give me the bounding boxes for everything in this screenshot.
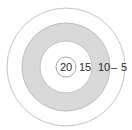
ring-label-20: 20 bbox=[60, 61, 72, 73]
concentric-ring-diagram: 20 15 10 – 5 bbox=[0, 0, 132, 130]
ring-label-5: 5 bbox=[121, 61, 127, 73]
ring-label-separator-dash: – bbox=[111, 61, 118, 73]
ring-label-10: 10 bbox=[98, 61, 110, 73]
target-rings-svg: 20 15 10 – 5 bbox=[0, 0, 132, 130]
ring-label-15: 15 bbox=[79, 61, 91, 73]
